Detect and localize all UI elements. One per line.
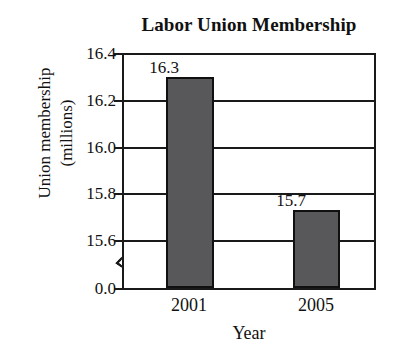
y-tick-label-0-0: 0.0 [56, 279, 116, 299]
y-tick-label-15-8: 15.8 [56, 184, 116, 204]
plot-area [122, 53, 376, 290]
chart-figure: Labor Union Membership Union membership … [0, 0, 400, 352]
y-tick-label-16-2: 16.2 [56, 91, 116, 111]
gridline-15-8 [124, 193, 374, 195]
x-axis-title: Year [122, 323, 376, 344]
chart-title: Labor Union Membership [110, 14, 388, 36]
x-tick-label-2005: 2005 [271, 295, 361, 316]
y-tick-label-16-0: 16.0 [56, 138, 116, 158]
gridline-16-2 [124, 100, 374, 102]
y-tick-label-15-6: 15.6 [56, 231, 116, 251]
bar-2001 [166, 77, 214, 288]
bar-value-label-2005: 15.7 [251, 191, 331, 211]
bar-value-label-2001: 16.3 [124, 58, 204, 78]
bar-2005 [293, 210, 340, 288]
y-tick-label-16-4: 16.4 [56, 44, 116, 64]
y-axis-title-line-1: Union membership [34, 23, 56, 243]
gridline-16-0 [124, 147, 374, 149]
x-tick-label-2001: 2001 [144, 295, 234, 316]
